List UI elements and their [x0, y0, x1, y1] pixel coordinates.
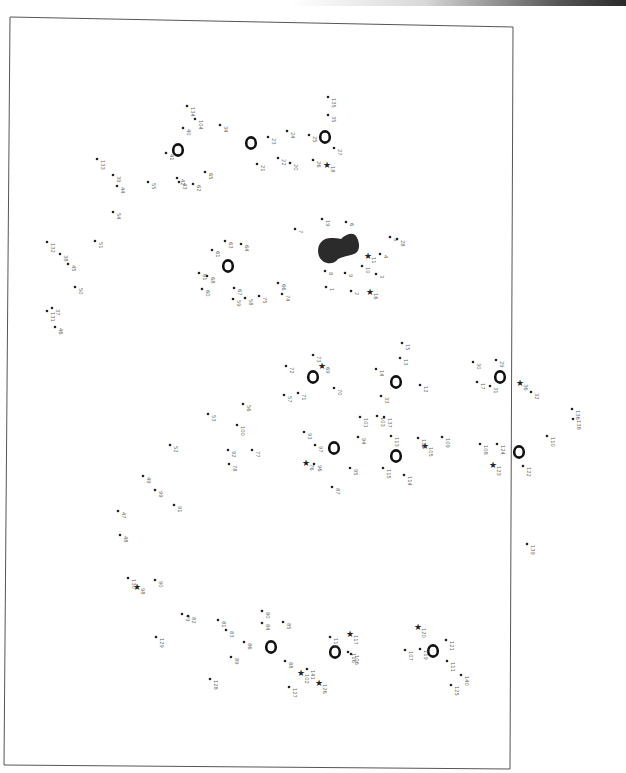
dot-marker — [571, 408, 574, 411]
dot-label: 89 — [234, 658, 240, 665]
dot-77: 77 — [251, 449, 261, 458]
dot-marker — [258, 295, 261, 298]
dot-55: 55 — [147, 181, 157, 190]
dot-marker — [59, 253, 62, 256]
dot-marker — [281, 293, 284, 296]
dot-label: 54 — [116, 213, 122, 220]
dot-label: 59 — [236, 300, 242, 307]
dot-label: 114 — [407, 476, 413, 487]
ring-marker — [246, 137, 256, 148]
dot-120: ★120 — [414, 622, 427, 638]
dot-label: 7 — [298, 230, 304, 233]
dot-label: 105 — [428, 447, 434, 457]
dot-marker — [242, 403, 245, 406]
dot-label: 93 — [307, 433, 313, 440]
dot-122: 122 — [522, 465, 532, 477]
dot-marker — [441, 436, 444, 439]
dot-label: 110 — [550, 437, 556, 447]
dot-23: 23 — [267, 136, 277, 145]
dot-marker — [325, 286, 328, 289]
dot-marker — [209, 678, 212, 681]
dot-label: 29 — [499, 361, 505, 368]
dot-marker — [230, 656, 233, 659]
dot-label: 25 — [312, 136, 318, 143]
dot-label: 12 — [423, 386, 429, 393]
dot-marker — [117, 510, 120, 513]
dot-label: 119 — [423, 650, 429, 660]
dot-25: 25 — [308, 134, 318, 143]
dot-35: 35 — [327, 114, 337, 123]
dot-54: 54 — [112, 211, 122, 221]
dot-marker — [227, 449, 230, 452]
dot-marker — [282, 621, 285, 624]
dot-3: 3 — [375, 273, 385, 279]
dot-89: 89 — [230, 656, 240, 665]
dot-label: 49 — [146, 477, 152, 484]
dot-marker — [357, 436, 360, 439]
dot-marker — [119, 534, 122, 537]
dot-marker — [51, 307, 54, 310]
dot-label: 120 — [421, 628, 427, 638]
dot-marker — [154, 579, 157, 582]
dot-29: 29 — [495, 359, 505, 368]
dot-marker — [207, 413, 210, 416]
dot-marker — [261, 622, 264, 625]
dot-marker — [333, 147, 336, 150]
dot-127: 127 — [288, 686, 298, 698]
dot-marker — [446, 660, 449, 663]
dot-marker — [312, 354, 315, 357]
dot-label: 118 — [333, 638, 339, 648]
dot-marker — [333, 387, 336, 390]
dot-93: 93 — [303, 431, 313, 440]
star-marker-icon: ★ — [366, 287, 374, 297]
dot-label: 100 — [240, 426, 246, 436]
dot-label: 6 — [349, 223, 355, 226]
dot-128: 128 — [209, 678, 219, 690]
dot-80: 80 — [261, 610, 271, 619]
dot-60: 60 — [201, 288, 211, 297]
dot-marker — [321, 218, 324, 221]
dot-label: 134 — [190, 107, 196, 118]
dot-label: 101 — [363, 418, 369, 428]
dot-marker — [404, 649, 407, 652]
dot-label: 92 — [231, 451, 237, 458]
dot-marker — [344, 272, 347, 275]
dot-label: 137 — [387, 418, 393, 428]
dot-label: 41 — [169, 154, 175, 161]
dot-label: 58 — [248, 299, 254, 306]
dot-label: 81 — [221, 621, 227, 628]
dot-label: 111 — [450, 662, 456, 672]
dot-41: 41 — [165, 152, 175, 161]
dot-label: 35 — [331, 116, 337, 123]
dot-label: 4 — [383, 255, 389, 259]
dot-label: 127 — [292, 688, 298, 698]
dot-marker — [187, 615, 190, 618]
dot-label: 73 — [316, 356, 322, 363]
dot-6: 6 — [345, 221, 355, 227]
dot-marker — [182, 127, 185, 130]
dot-90: 90 — [154, 579, 164, 588]
dot-marker — [94, 240, 97, 243]
dot-marker — [194, 118, 197, 121]
dot-label: 94 — [361, 438, 367, 445]
dot-102: ★102 — [297, 668, 310, 684]
dot-label: 126 — [322, 684, 328, 694]
dot-34: 34 — [219, 124, 229, 134]
dot-label: 115 — [386, 469, 392, 479]
dot-marker — [349, 467, 352, 470]
dot-marker — [154, 489, 157, 492]
dot-marker — [522, 465, 525, 468]
dot-label: 34 — [223, 126, 229, 133]
dot-marker — [331, 486, 334, 489]
dot-marker — [403, 474, 406, 477]
dot-marker — [165, 152, 168, 155]
dot-46: 46 — [54, 326, 64, 335]
dot-113: 113 — [390, 435, 400, 447]
dot-marker — [361, 265, 364, 268]
dot-139: 139 — [526, 543, 536, 555]
dot-marker — [67, 263, 70, 266]
dot-label: 23 — [271, 138, 277, 145]
ring-marker — [320, 131, 330, 142]
dot-marker — [228, 463, 231, 466]
dot-marker — [217, 619, 220, 622]
